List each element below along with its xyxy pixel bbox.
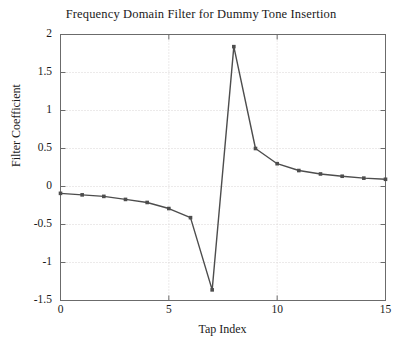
data-point-marker [275,162,279,166]
data-point-marker [362,176,366,180]
data-point-marker [232,45,236,49]
data-point-marker [254,147,258,151]
data-point-marker [210,288,214,292]
data-point-marker [319,172,323,176]
data-point-marker [145,201,149,205]
data-point-marker [189,216,193,220]
data-line [61,47,386,290]
x-tick-label: 0 [41,303,81,315]
y-tick-label: -1 [6,255,52,267]
data-point-marker [297,169,301,173]
y-tick-label: 0 [6,179,52,191]
chart-figure: Frequency Domain Filter for Dummy Tone I… [0,0,402,345]
data-point-marker [167,207,171,211]
y-tick-label: 0.5 [6,141,52,153]
data-point-marker [384,177,388,181]
y-tick-label: 1.5 [6,65,52,77]
plot-area [0,0,402,345]
data-point-marker [80,193,84,197]
data-point-marker [340,174,344,178]
data-point-marker [124,198,128,202]
x-tick-label: 10 [257,303,297,315]
y-tick-label: 2 [6,27,52,39]
x-tick-label: 5 [149,303,189,315]
x-tick-label: 15 [366,303,402,315]
y-tick-label: -0.5 [6,217,52,229]
y-tick-label: 1 [6,103,52,115]
data-point-marker [59,192,63,196]
data-point-marker [102,195,106,199]
